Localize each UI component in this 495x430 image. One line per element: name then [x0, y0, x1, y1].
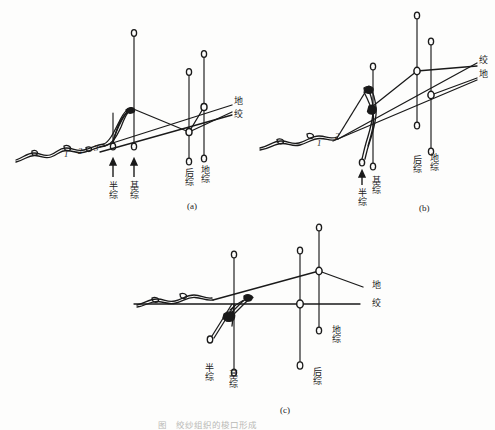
shaft-label-a-ground: 地综 — [200, 165, 209, 183]
shaft-label-a-half: 半综 — [108, 181, 117, 199]
shaft-label-c-ground: 地综 — [331, 325, 340, 343]
warp-threads-a — [16, 105, 232, 162]
subfigure-b-graphic — [245, 0, 495, 185]
subfigure-a-graphic — [0, 0, 250, 185]
warp-number-b-2: 2 — [335, 132, 339, 141]
warp-number-a-3: 3 — [94, 144, 98, 153]
arrow-marks-b — [359, 171, 365, 186]
shaft-label-b-half: 半综 — [357, 188, 366, 206]
warp-threads-b — [260, 63, 477, 159]
subfigure-tag-c: (c) — [280, 406, 290, 415]
shaft-label-b-ground: 地综 — [429, 153, 438, 171]
line-label-a-bottom: 绞 — [234, 110, 243, 119]
subfigure-c-graphic — [120, 222, 420, 407]
line-label-c-bottom: 绞 — [372, 299, 381, 308]
figure-caption: 图 绞纱组织的梭口形成 — [158, 421, 257, 430]
shaft-label-b-back: 后综 — [412, 155, 421, 173]
warp-number-b-1: 1 — [317, 139, 321, 148]
line-label-a-top: 地 — [234, 97, 243, 106]
line-label-b-top: 绞 — [479, 56, 488, 65]
shaft-label-a-back: 后综 — [184, 168, 193, 186]
warp-number-a-1: 1 — [64, 150, 68, 159]
shaft-label-c-base: 基综 — [228, 370, 237, 388]
heald-eyelets-b — [370, 12, 433, 170]
shaft-label-c-back: 后综 — [312, 367, 321, 385]
shaft-label-b-base: 基综 — [371, 176, 380, 194]
warp-number-a-2: 2 — [78, 147, 82, 156]
subfigure-tag-b: (b) — [419, 204, 430, 213]
shaft-label-a-base: 基综 — [129, 181, 138, 199]
subfigure-tag-a: (a) — [187, 202, 197, 211]
shaft-label-c-half: 半综 — [204, 363, 213, 381]
warp-threads-c — [134, 271, 363, 338]
line-label-c-top: 地 — [372, 281, 381, 290]
arrow-marks-a — [110, 159, 137, 178]
line-label-b-bottom: 地 — [479, 70, 488, 79]
